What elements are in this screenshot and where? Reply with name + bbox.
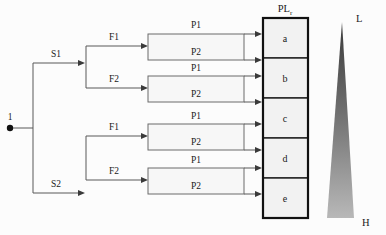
priority-gradient-triangle xyxy=(327,22,354,218)
pl-column-header: PLr xyxy=(278,3,293,17)
edge-s1-f2-label: F2 xyxy=(109,74,119,84)
pl-cell-c-label: c xyxy=(283,113,288,124)
edge-s2-f1-label: F1 xyxy=(109,122,119,132)
gradient-bottom-label: H xyxy=(362,217,370,228)
edge-p2-box2-label: P2 xyxy=(191,89,201,99)
root-node-dot xyxy=(7,125,13,131)
edge-s1-f1-label: F1 xyxy=(109,32,119,42)
edge-s1-f2-arrowhead xyxy=(141,85,148,91)
edge-p2-box4-label: P2 xyxy=(191,181,201,191)
gradient-top-label: L xyxy=(356,13,362,24)
edge-s2-label: S2 xyxy=(51,179,61,189)
edge-p2-box4-arrowhead xyxy=(255,191,262,197)
edge-s2-f2-arrowhead xyxy=(141,177,148,183)
diagram-canvas: 1 S1 S2 F1 F2 F1 F2 xyxy=(0,0,386,235)
edge-s1-label: S1 xyxy=(51,49,61,59)
edge-s2-f2-label: F2 xyxy=(109,166,119,176)
edge-s2-arrowhead xyxy=(78,190,85,196)
edge-p2-box1-arrowhead xyxy=(255,57,262,63)
pl-cell-b-label: b xyxy=(283,73,288,84)
edge-p1-box3-label: P1 xyxy=(191,111,201,121)
edge-p2-box3-label: P2 xyxy=(191,137,201,147)
edge-p2-box1-label: P2 xyxy=(191,47,201,57)
edge-s1-arrowhead xyxy=(78,60,85,66)
edge-s2-f1-arrowhead xyxy=(141,133,148,139)
edge-p1-box4-label: P1 xyxy=(191,155,201,165)
edge-p1-box2-label: P1 xyxy=(191,63,201,73)
pl-header-subscript: r xyxy=(290,9,293,17)
pl-cell-a-label: a xyxy=(283,33,288,44)
pl-cell-e-label: e xyxy=(283,193,288,204)
diagram-svg: 1 S1 S2 F1 F2 F1 F2 xyxy=(0,0,386,235)
root-node-label: 1 xyxy=(8,112,13,122)
edge-p2-box3-arrowhead xyxy=(255,147,262,153)
pl-cell-d-label: d xyxy=(283,153,288,164)
edge-s1-f1-arrowhead xyxy=(141,43,148,49)
edge-p1-box2-arrowhead xyxy=(255,73,262,79)
pl-header-text: PL xyxy=(278,3,290,14)
edge-p1-box1-arrowhead xyxy=(255,31,262,37)
edge-p2-box2-arrowhead xyxy=(255,99,262,105)
edge-p1-box1-label: P1 xyxy=(191,20,201,30)
edge-p1-box4-arrowhead xyxy=(255,165,262,171)
edge-p1-box3-arrowhead xyxy=(255,121,262,127)
